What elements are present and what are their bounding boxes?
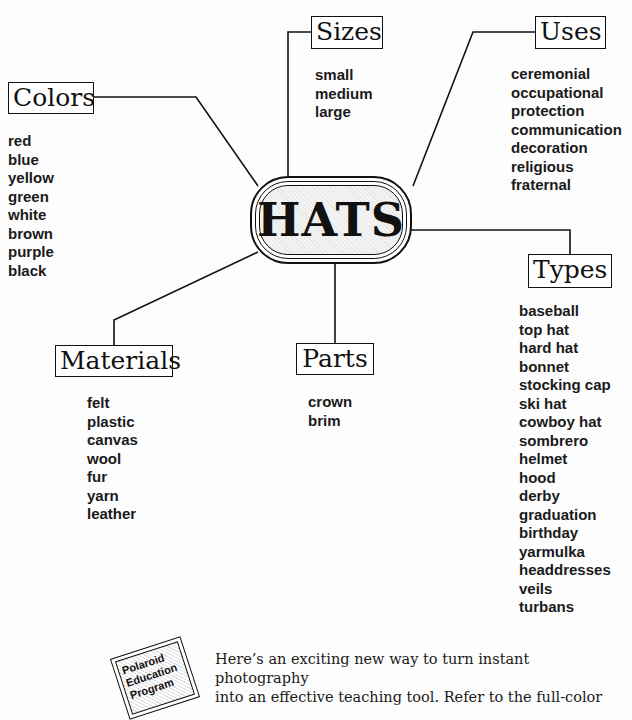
- list-item: purple: [8, 243, 54, 262]
- list-item: medium: [315, 85, 373, 104]
- list-item: helmet: [519, 450, 611, 469]
- list-item: ceremonial: [511, 65, 622, 84]
- footer-line: into an effective teaching tool. Refer t…: [215, 688, 625, 707]
- category-uses-box: Uses: [535, 16, 606, 49]
- category-sizes-box: Sizes: [311, 16, 383, 49]
- list-item: birthday: [519, 524, 611, 543]
- list-item: turbans: [519, 598, 611, 617]
- footer-line: Here’s an exciting new way to turn insta…: [215, 650, 625, 688]
- list-item: sombrero: [519, 432, 611, 451]
- colors-list: red blue yellow green white brown purple…: [8, 132, 54, 280]
- list-item: felt: [87, 394, 138, 413]
- list-item: small: [315, 66, 373, 85]
- list-item: red: [8, 132, 54, 151]
- category-parts-box: Parts: [296, 343, 374, 375]
- list-item: fraternal: [511, 176, 622, 195]
- list-item: religious: [511, 158, 622, 177]
- category-parts-label: Parts: [302, 344, 367, 373]
- category-sizes-label: Sizes: [316, 17, 382, 46]
- list-item: top hat: [519, 321, 611, 340]
- list-item: yarn: [87, 487, 138, 506]
- uses-list: ceremonial occupational protection commu…: [511, 65, 622, 195]
- list-item: canvas: [87, 431, 138, 450]
- list-item: brim: [308, 412, 352, 431]
- list-item: crown: [308, 393, 352, 412]
- list-item: occupational: [511, 84, 622, 103]
- list-item: decoration: [511, 139, 622, 158]
- connector-types: [411, 230, 570, 254]
- category-materials-box: Materials: [55, 345, 173, 377]
- list-item: brown: [8, 225, 54, 244]
- list-item: plastic: [87, 413, 138, 432]
- list-item: black: [8, 262, 54, 281]
- list-item: hood: [519, 469, 611, 488]
- list-item: yarmulka: [519, 543, 611, 562]
- materials-list: felt plastic canvas wool fur yarn leathe…: [87, 394, 138, 524]
- center-node-hats: HATS: [250, 176, 412, 264]
- list-item: cowboy hat: [519, 413, 611, 432]
- list-item: green: [8, 188, 54, 207]
- list-item: ski hat: [519, 395, 611, 414]
- list-item: derby: [519, 487, 611, 506]
- list-item: wool: [87, 450, 138, 469]
- list-item: communication: [511, 121, 622, 140]
- list-item: graduation: [519, 506, 611, 525]
- category-types-label: Types: [533, 255, 607, 284]
- list-item: yellow: [8, 169, 54, 188]
- sizes-list: small medium large: [315, 66, 373, 122]
- list-item: white: [8, 206, 54, 225]
- list-item: blue: [8, 151, 54, 170]
- list-item: stocking cap: [519, 376, 611, 395]
- list-item: large: [315, 103, 373, 122]
- connector-materials: [114, 252, 258, 345]
- category-colors-box: Colors: [8, 82, 94, 114]
- parts-list: crown brim: [308, 393, 352, 430]
- list-item: leather: [87, 505, 138, 524]
- connector-sizes: [288, 32, 311, 178]
- list-item: baseball: [519, 302, 611, 321]
- list-item: protection: [511, 102, 622, 121]
- category-uses-label: Uses: [540, 17, 602, 46]
- footer-paragraph: Here’s an exciting new way to turn insta…: [215, 650, 625, 707]
- category-materials-label: Materials: [60, 346, 181, 375]
- connector-colors: [93, 97, 258, 186]
- list-item: headdresses: [519, 561, 611, 580]
- category-colors-label: Colors: [13, 83, 95, 112]
- list-item: bonnet: [519, 358, 611, 377]
- list-item: fur: [87, 468, 138, 487]
- category-types-box: Types: [528, 254, 612, 288]
- types-list: baseball top hat hard hat bonnet stockin…: [519, 302, 611, 617]
- center-title: HATS: [257, 193, 405, 247]
- list-item: hard hat: [519, 339, 611, 358]
- list-item: veils: [519, 580, 611, 599]
